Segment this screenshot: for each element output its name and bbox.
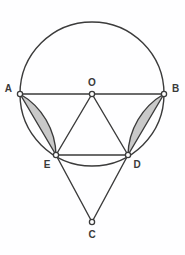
point-marker-c bbox=[89, 219, 94, 224]
point-label-e: E bbox=[44, 159, 51, 170]
point-marker-o bbox=[89, 91, 94, 96]
geometry-canvas: AOBEDC bbox=[0, 0, 185, 255]
point-marker-a bbox=[17, 91, 22, 96]
geometry-figure: AOBEDC bbox=[0, 0, 185, 255]
point-label-o: O bbox=[88, 77, 96, 88]
line-DC bbox=[92, 155, 128, 222]
point-label-c: C bbox=[88, 229, 95, 240]
line-EC bbox=[56, 155, 92, 222]
left-circular-segment-AE-shape bbox=[20, 94, 56, 155]
point-label-b: B bbox=[172, 83, 179, 94]
point-marker-d bbox=[125, 152, 130, 157]
point-label-a: A bbox=[5, 83, 12, 94]
radius-OE bbox=[56, 94, 92, 155]
right-circular-segment-BD-shape bbox=[128, 94, 164, 155]
point-marker-b bbox=[161, 91, 166, 96]
point-marker-e bbox=[53, 152, 58, 157]
radius-OD bbox=[92, 94, 128, 155]
point-label-d: D bbox=[133, 159, 140, 170]
